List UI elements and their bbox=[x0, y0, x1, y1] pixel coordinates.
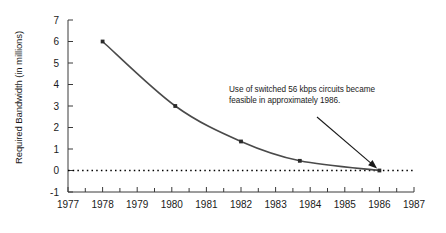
x-tick-label: 1984 bbox=[299, 199, 322, 210]
annotation-arrow-shaft bbox=[317, 117, 374, 166]
x-tick-label: 1983 bbox=[264, 199, 287, 210]
x-tick-label: 1986 bbox=[368, 199, 391, 210]
x-tick-label: 1985 bbox=[334, 199, 357, 210]
plot-area: -101234567 19771978197919801981198219831… bbox=[0, 0, 446, 233]
series-markers-required-bandwidth bbox=[101, 40, 382, 173]
x-tick-label: 1980 bbox=[161, 199, 184, 210]
y-tick-label: 0 bbox=[53, 165, 59, 176]
data-point-marker bbox=[378, 169, 382, 173]
annotation-arrow bbox=[317, 117, 377, 169]
x-tick-label: 1982 bbox=[230, 199, 253, 210]
x-tick-label: 1978 bbox=[91, 199, 114, 210]
y-tick-label: 6 bbox=[53, 36, 59, 47]
y-tick-label: 7 bbox=[53, 15, 59, 26]
data-point-marker bbox=[101, 40, 105, 44]
x-tick-label: 1981 bbox=[195, 199, 218, 210]
data-point-marker bbox=[298, 159, 302, 163]
annotation-label-line-1: Use of switched 56 kbps circuits became bbox=[229, 84, 439, 95]
y-tick-label: 3 bbox=[53, 101, 59, 112]
x-axis-ticks: 1977197819791980198119821983198419851986… bbox=[57, 187, 426, 210]
bandwidth-decline-chart: Required Bandwidth (in millions) -101234… bbox=[0, 0, 446, 233]
annotation-label-line-2: feasible in approximately 1986. bbox=[229, 95, 439, 106]
y-tick-label: 2 bbox=[53, 122, 59, 133]
data-point-marker bbox=[173, 104, 177, 108]
x-tick-label: 1987 bbox=[403, 199, 426, 210]
series-line-required-bandwidth bbox=[103, 42, 380, 171]
annotation-label: Use of switched 56 kbps circuits became … bbox=[229, 84, 439, 106]
y-tick-label: 1 bbox=[53, 144, 59, 155]
y-axis-ticks: -101234567 bbox=[50, 15, 73, 198]
data-point-marker bbox=[239, 140, 243, 144]
x-tick-label: 1979 bbox=[126, 199, 149, 210]
y-tick-label: -1 bbox=[50, 187, 59, 198]
x-tick-label: 1977 bbox=[57, 199, 80, 210]
y-tick-label: 4 bbox=[53, 79, 59, 90]
y-tick-label: 5 bbox=[53, 58, 59, 69]
